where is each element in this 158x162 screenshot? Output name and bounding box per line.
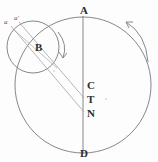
label-B: B <box>35 42 42 53</box>
label-a: a <box>4 19 8 26</box>
label-T: T <box>87 94 94 105</box>
figure-container: a a' B A C T N D <box>0 0 158 162</box>
chord-a-n <box>11 26 84 112</box>
label-a-prime: a' <box>14 15 19 22</box>
chord-aprime-t <box>19 22 84 98</box>
label-N: N <box>87 108 95 119</box>
scan-speck <box>105 98 107 100</box>
figure-drawing <box>0 0 158 162</box>
scan-speck <box>126 135 127 136</box>
label-C: C <box>87 80 95 91</box>
label-D: D <box>80 148 88 159</box>
label-A: A <box>80 5 88 16</box>
scan-speck <box>53 70 55 72</box>
